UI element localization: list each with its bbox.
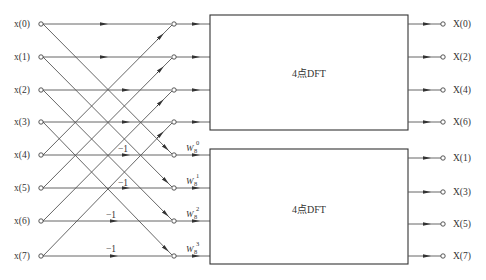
middle-nodes [172, 22, 210, 258]
top-dft-label: 4点DFT [292, 68, 326, 79]
svg-text:8: 8 [194, 248, 197, 255]
input-label: x(2) [14, 85, 30, 96]
output-labels: X(0) X(2) X(4) X(6) X(1) X(3) X(5) X(7) [453, 19, 471, 262]
output-label: X(1) [453, 153, 471, 164]
horizontal-branches [43, 24, 171, 256]
input-label: x(4) [14, 150, 30, 161]
twiddle-w83: W 8 3 [186, 240, 199, 255]
twiddle-factors: W 8 0 W 8 1 W 8 2 W 8 3 [186, 139, 199, 255]
input-label: x(1) [14, 52, 30, 63]
input-labels: x(0) x(1) x(2) x(3) x(4) x(5) x(6) x(7) [14, 19, 30, 262]
input-label: x(6) [14, 216, 30, 227]
output-label: X(0) [453, 19, 471, 30]
minus-one-label: −1 [106, 210, 116, 220]
bottom-dft-label: 4点DFT [292, 204, 326, 215]
twiddle-w81: W 8 1 [186, 172, 199, 187]
svg-text:8: 8 [194, 213, 197, 220]
svg-text:1: 1 [196, 172, 199, 179]
svg-text:8: 8 [194, 147, 197, 154]
output-label: X(2) [453, 52, 471, 63]
svg-text:3: 3 [196, 240, 199, 247]
input-label: x(0) [14, 19, 30, 30]
output-label: X(4) [453, 85, 471, 96]
svg-text:2: 2 [196, 205, 199, 212]
output-label: X(6) [453, 117, 471, 128]
minus-one-label: −1 [118, 178, 128, 188]
input-label: x(7) [14, 251, 30, 262]
input-nodes [39, 22, 43, 258]
svg-text:0: 0 [196, 139, 199, 146]
output-branches [408, 22, 445, 258]
output-label: X(7) [453, 251, 471, 262]
input-label: x(3) [14, 117, 30, 128]
minus-one-label: −1 [106, 244, 116, 254]
output-label: X(3) [453, 187, 471, 198]
input-label: x(5) [14, 183, 30, 194]
twiddle-w82: W 8 2 [186, 205, 199, 220]
svg-text:8: 8 [194, 180, 197, 187]
twiddle-w80: W 8 0 [186, 139, 199, 154]
output-label: X(5) [453, 219, 471, 230]
minus-one-label: −1 [118, 144, 128, 154]
butterfly-diagram: x(0) x(1) x(2) x(3) x(4) x(5) x(6) x(7) [0, 0, 486, 280]
